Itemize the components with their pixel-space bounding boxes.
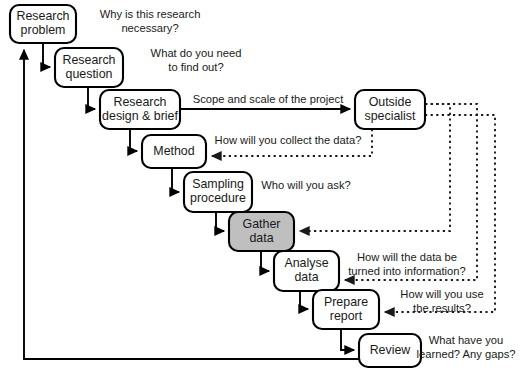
node-label-prepare-report: Prepare	[324, 295, 368, 309]
annotation-how-collect-data: How will you collect the data?	[215, 134, 362, 146]
node-label-sampling: procedure	[190, 191, 246, 205]
node-label-analyse-data: data	[294, 270, 318, 284]
annotation-text-how-collect-data: How will you collect the data?	[215, 134, 362, 146]
node-review[interactable]: Review	[359, 334, 421, 367]
annotation-why-necessary: Why is this researchnecessary?	[100, 8, 201, 34]
node-sampling[interactable]: Samplingprocedure	[184, 172, 252, 212]
node-layer: ResearchproblemResearchquestionResearchd…	[10, 5, 425, 367]
flowchart-svg: ResearchproblemResearchquestionResearchd…	[0, 0, 520, 378]
node-label-research-design: Research	[113, 95, 166, 109]
annotation-text-who-will-you-ask: Who will you ask?	[261, 179, 351, 191]
annotation-text-how-data-information: How will the data be	[357, 251, 457, 263]
connector-method-to-sampling	[172, 168, 179, 192]
connector-analyse-to-prepare	[300, 291, 308, 309]
node-label-outside-specialist: specialist	[365, 109, 417, 123]
annotation-text-what-find-out: to find out?	[168, 61, 223, 73]
node-label-research-question: Research	[62, 53, 115, 67]
node-label-research-question: question	[66, 67, 113, 81]
connector-design-to-method	[130, 129, 137, 151]
annotation-how-data-information: How will the data beturned into informat…	[348, 251, 466, 277]
node-research-design[interactable]: Researchdesign & brief	[100, 90, 180, 129]
node-gather-data[interactable]: Gatherdata	[229, 212, 294, 251]
node-label-outside-specialist: Outside	[369, 95, 412, 109]
node-label-gather-data: data	[249, 231, 273, 245]
node-analyse-data[interactable]: Analysedata	[274, 251, 339, 291]
diagram-canvas: ResearchproblemResearchquestionResearchd…	[0, 0, 520, 378]
annotation-text-how-use-results: the results?	[413, 302, 471, 314]
annotation-layer: Why is this researchnecessary?What do yo…	[100, 8, 516, 360]
annotation-text-how-data-information: turned into information?	[348, 265, 466, 277]
node-label-sampling: Sampling	[192, 177, 244, 191]
annotation-text-what-find-out: What do you need	[151, 47, 242, 59]
annotation-scope-scale: Scope and scale of the project	[193, 93, 344, 105]
annotation-text-what-learned-gaps: What have you	[429, 334, 504, 346]
node-label-research-problem: problem	[21, 23, 66, 37]
annotation-text-what-learned-gaps: learned? Any gaps?	[417, 348, 516, 360]
connector-gather-to-analyse	[261, 251, 269, 271]
annotation-text-why-necessary: Why is this research	[100, 8, 201, 20]
connector-question-to-design	[88, 87, 95, 109]
annotation-text-scope-scale: Scope and scale of the project	[193, 93, 344, 105]
annotation-text-why-necessary: necessary?	[121, 22, 178, 34]
node-label-prepare-report: report	[330, 309, 363, 323]
annotation-what-learned-gaps: What have youlearned? Any gaps?	[417, 334, 516, 360]
node-research-problem[interactable]: Researchproblem	[10, 5, 76, 43]
annotation-how-use-results: How will you usethe results?	[400, 288, 483, 314]
annotation-what-find-out: What do you needto find out?	[151, 47, 242, 73]
connector-sampling-to-gather	[216, 212, 224, 231]
connector-prepare-to-review	[341, 329, 354, 350]
node-method[interactable]: Method	[142, 135, 206, 168]
annotation-who-will-you-ask: Who will you ask?	[261, 179, 351, 191]
node-label-method: Method	[153, 144, 194, 158]
connector-problem-to-question	[43, 43, 50, 67]
node-label-analyse-data: Analyse	[284, 256, 328, 270]
node-outside-specialist[interactable]: Outsidespecialist	[355, 90, 425, 129]
node-label-gather-data: Gather	[243, 217, 281, 231]
annotation-text-how-use-results: How will you use	[400, 288, 483, 300]
node-prepare-report[interactable]: Preparereport	[313, 290, 379, 329]
node-label-review: Review	[370, 343, 411, 357]
node-research-question[interactable]: Researchquestion	[55, 48, 123, 87]
dotted-connector-specialist-to-prepare	[385, 115, 495, 312]
node-label-research-problem: Research	[16, 9, 69, 23]
node-label-research-design: design & brief	[102, 109, 178, 123]
